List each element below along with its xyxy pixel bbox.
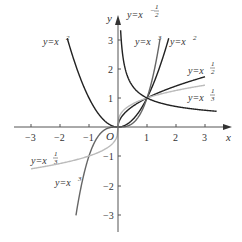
svg-text:1: 1 — [211, 60, 215, 68]
svg-text:3: 3 — [77, 175, 82, 183]
y-tick-label: 2 — [108, 64, 113, 75]
y-tick-label: −2 — [103, 181, 114, 192]
x-axis-label: x — [225, 131, 231, 143]
x-tick-label: 2 — [173, 132, 178, 143]
y-tick-label: −3 — [103, 210, 114, 221]
curve-label-x-neg-half: y=x − 1 2 — [126, 3, 159, 20]
svg-text:2: 2 — [211, 68, 215, 76]
svg-text:3: 3 — [157, 34, 162, 42]
y-tick-label: 3 — [108, 35, 113, 46]
y-tick-label: −1 — [103, 151, 114, 162]
curve-label-x2-left: y=x 2 — [42, 34, 70, 47]
curve-label-x3-top: y=x 3 — [134, 34, 162, 47]
y-axis-arrow-icon — [115, 15, 121, 25]
svg-text:1: 1 — [211, 87, 215, 95]
svg-text:3: 3 — [53, 158, 58, 166]
y-axis-label: y — [106, 12, 112, 24]
svg-text:1: 1 — [54, 150, 58, 158]
power-functions-chart: x y O −3 −2 −1 1 2 3 3 2 1 −1 −2 −3 y=x … — [0, 0, 242, 242]
svg-text:1: 1 — [155, 3, 159, 11]
svg-text:y=x: y=x — [134, 36, 151, 47]
x-tick-label: −1 — [83, 132, 94, 143]
svg-text:y=x: y=x — [187, 92, 204, 103]
svg-text:y=x: y=x — [126, 9, 143, 20]
x-tick-label: 1 — [144, 132, 149, 143]
svg-text:2: 2 — [66, 34, 70, 42]
x-tick-label: 3 — [202, 132, 207, 143]
y-tick-label: 1 — [108, 93, 113, 104]
svg-text:y=x: y=x — [54, 177, 71, 188]
curve-label-x-half: y=x 1 2 — [187, 60, 215, 76]
x-tick-label: −2 — [54, 132, 65, 143]
svg-text:y=x: y=x — [169, 36, 186, 47]
curve-label-x-third-left: y=x 1 3 — [30, 150, 58, 166]
svg-text:y=x: y=x — [187, 65, 204, 76]
svg-text:2: 2 — [193, 34, 197, 42]
x-axis-arrow-icon — [223, 124, 232, 130]
svg-text:2: 2 — [155, 11, 159, 19]
svg-text:3: 3 — [210, 95, 215, 103]
svg-text:y=x: y=x — [42, 36, 59, 47]
x-tick-label: −3 — [25, 132, 36, 143]
svg-text:y=x: y=x — [30, 155, 47, 166]
curve-label-x3-bottom: y=x 3 — [54, 175, 82, 188]
origin-label: O — [106, 130, 114, 142]
curve-label-x-third-right: y=x 1 3 — [187, 87, 215, 103]
curve-label-x2-right: y=x 2 — [169, 34, 197, 47]
